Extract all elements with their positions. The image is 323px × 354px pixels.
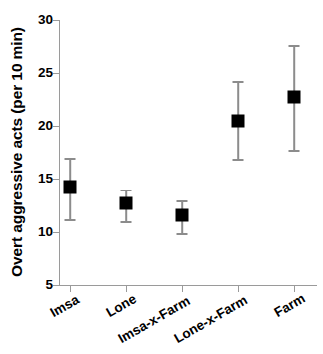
y-tick-mark [53, 232, 59, 233]
error-bar-cap-upper [65, 158, 76, 160]
y-tick-label-wrap: 5 [0, 278, 53, 292]
data-point-marker [232, 114, 245, 127]
data-point-marker [288, 91, 301, 104]
error-bar-cap-lower [289, 150, 300, 152]
y-tick-label-wrap: 30 [0, 13, 53, 27]
x-tick-label: Imsa [48, 292, 81, 319]
y-tick-label: 25 [19, 66, 53, 80]
y-tick-mark [53, 179, 59, 180]
y-tick-mark [53, 126, 59, 127]
y-tick-label-wrap: 25 [0, 66, 53, 80]
error-bar-cap-upper [177, 200, 188, 202]
x-tick-label: Lone [104, 292, 139, 320]
x-tick-mark [182, 286, 183, 292]
y-tick-mark [53, 20, 59, 21]
error-bar-cap-lower [121, 221, 132, 223]
y-tick-label: 30 [19, 13, 53, 27]
error-bar-cap-upper [289, 45, 300, 47]
error-bar-cap-lower [177, 233, 188, 235]
x-tick-mark [238, 286, 239, 292]
y-tick-label: 20 [19, 119, 53, 133]
y-tick-label: 5 [19, 278, 53, 292]
y-tick-label-wrap: 15 [0, 172, 53, 186]
data-point-marker [120, 197, 133, 210]
error-bar-cap-lower [65, 219, 76, 221]
error-bar-cap-lower [233, 159, 244, 161]
x-tick-label: Farm [272, 291, 307, 319]
y-axis-line [59, 20, 60, 286]
x-axis-line [59, 285, 317, 286]
error-bar-cap-upper [233, 81, 244, 83]
y-tick-label-wrap: 10 [0, 225, 53, 239]
y-tick-mark [53, 73, 59, 74]
chart-figure: Overt aggressive acts (per 10 min) 51015… [0, 0, 323, 354]
y-tick-mark [53, 285, 59, 286]
x-tick-mark [294, 286, 295, 292]
x-tick-mark [70, 286, 71, 292]
data-point-marker [64, 181, 77, 194]
data-point-marker [176, 209, 189, 222]
y-tick-label: 15 [19, 172, 53, 186]
y-tick-label-wrap: 20 [0, 119, 53, 133]
y-axis-title: Overt aggressive acts (per 10 min) [4, 2, 30, 302]
y-tick-label: 10 [19, 225, 53, 239]
error-bar-cap-upper [121, 190, 132, 192]
x-tick-mark [126, 286, 127, 292]
